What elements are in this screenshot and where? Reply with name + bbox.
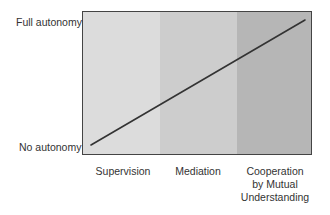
x-label-line: Cooperation bbox=[235, 165, 315, 178]
x-label-line: by Mutual bbox=[235, 178, 315, 191]
x-label-mediation: Mediation bbox=[166, 165, 230, 178]
x-label-line: Mediation bbox=[175, 165, 221, 177]
y-label-no-autonomy: No autonomy bbox=[19, 141, 81, 153]
x-label-line: Supervision bbox=[96, 165, 151, 177]
y-label-full-autonomy: Full autonomy bbox=[16, 16, 82, 28]
x-label-line: Understanding bbox=[235, 191, 315, 204]
x-label-supervision: Supervision bbox=[88, 165, 158, 178]
x-label-cooperation: Cooperation by Mutual Understanding bbox=[235, 165, 315, 204]
